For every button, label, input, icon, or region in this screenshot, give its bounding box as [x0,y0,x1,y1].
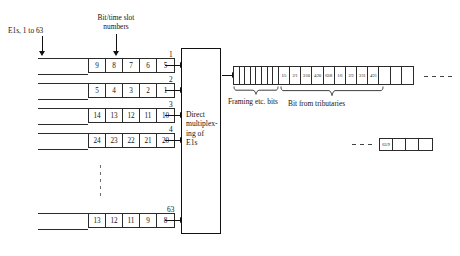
tributary-cell: 4/21 [368,67,379,84]
tributary-cell: 1/5 [279,67,290,84]
tributary-cell: 63/8 [324,67,335,84]
e1-row-63-lead-line [38,213,88,230]
bit-slot-label-line2: numbers [78,22,154,31]
e1-cell: 9 [140,214,157,227]
e1-cell: 22 [123,134,140,147]
tributary-cell: 4/20 [312,67,323,84]
e1-row-1-lead-line [38,58,88,75]
bit-slot-label-line1: Bit/time slot [78,13,154,22]
mux-output-arrow [222,75,232,76]
e1-cell: 13 [106,109,123,122]
e1-cell: 23 [106,134,123,147]
tail-cell [393,139,406,150]
e1s-label: E1s, 1 to 63 [8,26,43,35]
e1-row-2-arrow [165,90,181,91]
framing-brace-label: Framing etc. bits [228,97,278,106]
e1-cell: 5 [89,84,106,97]
frame-blank-cell [402,67,413,84]
e1-cell: 11 [123,214,140,227]
frame-blank-cell [391,67,402,84]
diagram-canvas: E1s, 1 to 63 Bit/time slot numbers 9 8 7… [0,0,460,256]
e1-cell: 24 [89,134,106,147]
e1-cell: 21 [140,134,157,147]
e1-row-63-arrow [165,220,181,221]
e1-cell: 8 [106,59,123,72]
bit-slot-down-arrow [116,34,117,52]
mux-block-line-4: E1s [186,138,197,147]
tail-cell [419,139,432,150]
e1-row-4: 24 23 22 21 20 [38,133,168,148]
e1-row-3-arrow [165,115,181,116]
e1-row-3: 14 13 12 11 10 [38,108,168,123]
e1s-down-arrow [42,36,43,52]
e1-row-1: 9 8 7 6 5 [38,58,168,73]
e1-row-1-cells: 9 8 7 6 5 [88,58,175,73]
e1-row-63: 13 12 11 9 8 [38,213,168,228]
stream-number-1: 1 [169,50,173,59]
stream-number-3: 3 [169,100,173,109]
tail-cell: 63/9 [380,139,393,150]
e1-cell: 11 [140,109,157,122]
mux-block-line-1: Direct [186,110,205,119]
e1-cell: 6 [140,59,157,72]
e1-cell: 12 [106,214,123,227]
e1-row-2-lead-line [38,83,88,100]
e1-cell: 3 [123,84,140,97]
e1-row-2: 5 4 3 2 1 [38,83,168,98]
tributary-brace-label: Bit from tributaries [288,99,345,108]
e1-row-63-cells: 13 12 11 9 8 [88,213,175,228]
frame-blank-cell [379,67,390,84]
mux-block-line-2: multiplex- [186,119,218,128]
tributary-cell: 2/2 [346,67,357,84]
mux-block-line-3: ing of [186,129,204,138]
tail-box-leading-dashes [352,144,376,145]
e1-cell: 4 [106,84,123,97]
e1-row-4-lead-line [38,133,88,150]
e1-row-4-cells: 24 23 22 21 20 [88,133,175,148]
stream-number-4: 4 [169,125,173,134]
rows-ellipsis [100,165,101,200]
e1-row-4-arrow [165,140,181,141]
e1-row-3-lead-line [38,108,88,125]
e1-cell: 12 [123,109,140,122]
e1-cell: 2 [140,84,157,97]
e1-row-3-cells: 14 13 12 11 10 [88,108,175,123]
e1-cell: 14 [89,109,106,122]
tributary-cell: 1/6 [335,67,346,84]
stream-number-2: 2 [169,75,173,84]
tail-frame-box: 63/9 [379,138,433,151]
stream-number-63: 63 [167,205,174,214]
tributary-cell: 3/11 [357,67,368,84]
output-frame: 1/5 2/1 3/10 4/20 63/8 1/6 2/2 3/11 4/21 [233,66,414,85]
frame-continuation-dashes [424,76,454,77]
e1-cell: 7 [123,59,140,72]
tributary-cell: 2/1 [290,67,301,84]
tributary-brace [280,86,384,97]
framing-brace [233,86,279,95]
tributary-cell: 3/10 [301,67,312,84]
tail-cell [406,139,419,150]
e1-row-2-cells: 5 4 3 2 1 [88,83,175,98]
e1-cell: 9 [89,59,106,72]
e1-cell: 13 [89,214,106,227]
e1-row-1-arrow [165,65,181,66]
